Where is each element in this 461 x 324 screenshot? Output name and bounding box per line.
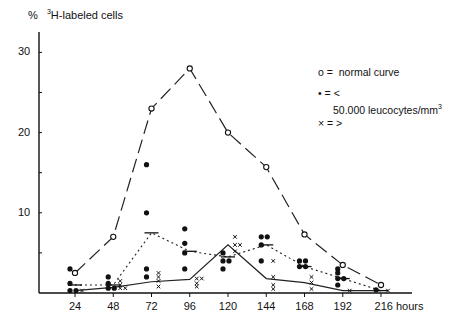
- legend-threshold-label: 50.000 leucocytes/mm3: [318, 100, 442, 117]
- x-tick-label: 48: [107, 300, 119, 312]
- open-circle-marker: [72, 270, 77, 275]
- x-tick-label: 168: [295, 300, 313, 312]
- open-circle-marker: [378, 282, 383, 287]
- cross-marker: [195, 277, 199, 281]
- dot-marker: [259, 234, 264, 239]
- dot-marker: [303, 258, 308, 263]
- open-circle-marker: [149, 106, 154, 111]
- dot-marker: [335, 270, 340, 275]
- cross-marker: [271, 259, 275, 263]
- open-circle-marker: [340, 262, 345, 267]
- dot-marker: [67, 288, 72, 293]
- cross-marker: [233, 249, 237, 253]
- cross-marker: [118, 279, 122, 283]
- cross-marker: [271, 287, 275, 291]
- open-circle-marker: [302, 232, 307, 237]
- cross-marker: [233, 235, 237, 239]
- dot-marker: [220, 250, 225, 255]
- cross-marker: [195, 285, 199, 289]
- open-circle-marker: [187, 66, 192, 71]
- dot-marker: [341, 276, 346, 281]
- dot-marker: [67, 281, 72, 286]
- dot-marker: [106, 281, 111, 286]
- y-tick-label: 20: [18, 126, 30, 138]
- legend-item-normal: o = normal curve: [318, 66, 442, 79]
- cross-marker: [157, 275, 161, 279]
- dot-marker: [106, 274, 111, 279]
- y-tick-label: 10: [18, 206, 30, 218]
- dot-marker: [297, 258, 302, 263]
- x-tick-label: 72: [145, 300, 157, 312]
- cross-marker: [200, 277, 204, 281]
- x-tick-label: 120: [219, 300, 237, 312]
- cross-marker: [310, 275, 314, 279]
- dot-marker: [297, 264, 302, 269]
- dot-marker: [220, 266, 225, 271]
- cross-marker: [271, 283, 275, 287]
- x-tick-label: 192: [334, 300, 352, 312]
- dot-marker: [303, 264, 308, 269]
- dot-marker: [265, 234, 270, 239]
- dot-marker: [182, 241, 187, 246]
- dot-marker: [144, 210, 149, 215]
- legend: o = normal curve • = < 50.000 leucocytes…: [318, 66, 442, 130]
- x-tick-label: 96: [184, 300, 196, 312]
- dot-marker: [67, 266, 72, 271]
- dot-marker: [182, 266, 187, 271]
- dot-marker: [144, 274, 149, 279]
- legend-item-below: • = <: [318, 87, 442, 100]
- dot-marker: [335, 276, 340, 281]
- open-circle-marker: [111, 234, 116, 239]
- dot-marker: [144, 266, 149, 271]
- dot-marker: [335, 282, 340, 287]
- dot-marker: [259, 242, 264, 247]
- cross-marker: [123, 286, 127, 290]
- dot-marker: [220, 258, 225, 263]
- dot-marker: [182, 250, 187, 255]
- dot-marker: [106, 286, 111, 291]
- x-tick-label: 144: [257, 300, 275, 312]
- chart-plot-area: [0, 0, 461, 324]
- cross-marker: [271, 275, 275, 279]
- cross-marker: [157, 271, 161, 275]
- x-tick-label: 216 hours: [375, 300, 424, 312]
- cross-marker: [157, 285, 161, 289]
- dot-marker: [182, 226, 187, 231]
- dot-marker: [73, 288, 78, 293]
- dot-marker: [112, 286, 117, 291]
- open-circle-marker: [225, 130, 230, 135]
- open-circle-marker: [264, 164, 269, 169]
- dot-marker: [259, 258, 264, 263]
- cross-marker: [233, 243, 237, 247]
- x-tick-label: 24: [69, 300, 81, 312]
- cross-marker: [310, 287, 314, 291]
- cross-marker: [238, 243, 242, 247]
- legend-item-above: × = >: [318, 117, 442, 130]
- dot-marker: [226, 258, 231, 263]
- y-tick-label: 30: [18, 45, 30, 57]
- dot-marker: [373, 287, 378, 292]
- dot-marker: [144, 162, 149, 167]
